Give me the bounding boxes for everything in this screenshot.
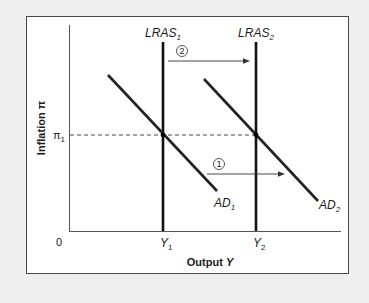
y-axis-title: Inflation π	[35, 100, 47, 155]
equilibrium-point-2	[254, 133, 259, 138]
step2-number: 2	[179, 46, 184, 56]
diagram-frame	[27, 17, 349, 274]
lras2-label: LRAS2	[238, 26, 274, 42]
step1-number: 1	[216, 159, 221, 169]
ad-lras-diagram: 2 1 LRAS1 LRAS2 AD1 AD2 π1 0 Y1 Y2 Outpu…	[0, 0, 369, 303]
lras1-label: LRAS1	[145, 26, 181, 42]
equilibrium-point-1	[161, 133, 166, 138]
diagram-stage: 2 1 LRAS1 LRAS2 AD1 AD2 π1 0 Y1 Y2 Outpu…	[0, 0, 369, 303]
x-axis-title: Output Y	[187, 256, 235, 268]
origin-label: 0	[56, 236, 62, 248]
